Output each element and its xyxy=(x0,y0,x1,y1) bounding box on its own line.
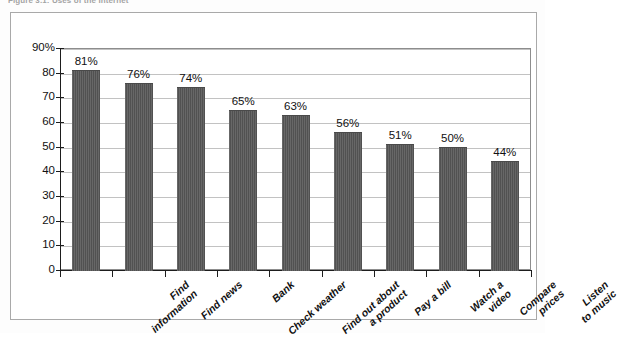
y-axis-tick-label: 20 xyxy=(15,215,55,227)
bar xyxy=(125,83,153,271)
x-axis-tick xyxy=(479,270,480,277)
x-axis-tick xyxy=(322,270,323,277)
y-axis-tick-label: 40 xyxy=(15,165,55,177)
bar xyxy=(386,144,414,271)
figure-box: 0102030405060708090% 81%Find information… xyxy=(10,12,537,320)
x-axis-tick xyxy=(531,270,532,277)
bar-value-label: 65% xyxy=(218,96,268,108)
y-axis-tick-label: 50 xyxy=(15,141,55,153)
bar-value-label: 74% xyxy=(166,73,216,85)
y-axis-tick xyxy=(56,245,64,246)
bar-value-label: 63% xyxy=(271,101,321,113)
y-axis-tick xyxy=(56,48,64,49)
bar-value-label: 81% xyxy=(61,56,111,68)
bar-value-label: 50% xyxy=(428,133,478,145)
bar xyxy=(334,132,362,271)
bar xyxy=(282,115,310,271)
bar xyxy=(72,70,100,271)
x-axis-tick xyxy=(269,270,270,277)
bar xyxy=(229,110,257,271)
figure-caption: Figure 3.1: Uses of the Internet xyxy=(8,0,308,5)
bar xyxy=(177,87,205,271)
y-axis-tick-label: 60 xyxy=(15,116,55,128)
x-axis-tick xyxy=(374,270,375,277)
y-axis-tick xyxy=(56,221,64,222)
y-axis-tick-label: 70 xyxy=(15,91,55,103)
gridline xyxy=(61,49,530,50)
x-axis-tick xyxy=(426,270,427,277)
y-axis-tick-label: 0 xyxy=(15,264,55,276)
bar-value-label: 51% xyxy=(375,130,425,142)
y-axis-tick-label: 10 xyxy=(15,239,55,251)
y-axis-tick xyxy=(56,73,64,74)
x-axis-tick xyxy=(60,270,61,277)
y-axis-tick xyxy=(56,147,64,148)
bar xyxy=(439,147,467,271)
y-axis-labels: 0102030405060708090% xyxy=(11,13,55,339)
bar xyxy=(491,161,519,271)
y-axis-tick-label: 30 xyxy=(15,190,55,202)
y-axis-tick xyxy=(56,122,64,123)
x-axis-tick xyxy=(217,270,218,277)
bar-value-label: 44% xyxy=(480,147,530,159)
y-axis-line xyxy=(60,48,61,271)
x-axis-tick xyxy=(165,270,166,277)
y-axis-tick xyxy=(56,171,64,172)
y-axis-tick-label: 90% xyxy=(15,42,55,54)
x-axis-tick xyxy=(112,270,113,277)
bar-value-label: 76% xyxy=(114,69,164,81)
y-axis-tick-label: 80 xyxy=(15,67,55,79)
y-axis-tick xyxy=(56,97,64,98)
bar-value-label: 56% xyxy=(323,118,373,130)
y-axis-tick xyxy=(56,196,64,197)
